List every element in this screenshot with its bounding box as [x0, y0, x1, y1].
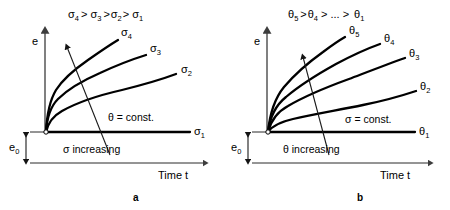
trend-arrow-a	[67, 47, 110, 155]
curve-label-sigma4: σ4	[121, 26, 132, 41]
panel-a: σ4>σ3>σ2>σ1 e Time t e0	[0, 0, 225, 210]
condition-label-a: θ = const.	[108, 111, 154, 123]
creep-curves-figure: σ4>σ3>σ2>σ1 e Time t e0	[0, 0, 450, 210]
header-b-rel-3: >	[343, 8, 349, 20]
curve-label-theta2: θ2	[420, 80, 430, 95]
header-rel-2: >	[103, 8, 109, 20]
header-b-rel-2: >	[321, 8, 327, 20]
header-sigma4-sub: 4	[75, 14, 79, 23]
curve-label-theta3: θ3	[409, 47, 419, 62]
curve-label-theta4: θ4	[384, 32, 394, 47]
curve-sigma2	[46, 74, 176, 132]
svg-text:θ5>θ4>...>θ1: θ5>θ4>...>θ1	[288, 8, 364, 23]
panel-b: θ5>θ4>...>θ1 e Time t e0	[225, 0, 450, 210]
header-theta4-sub: 4	[314, 14, 318, 23]
curve-label-sigma2: σ2	[181, 63, 192, 78]
header-sigma2-sub: 2	[118, 14, 122, 23]
panel-letter-a: a	[133, 192, 139, 203]
x-axis-label-a: Time t	[158, 169, 188, 181]
trend-arrow-b	[303, 57, 329, 155]
e0-bracket-a: e0	[9, 132, 45, 161]
header-sigma3-sub: 3	[97, 14, 101, 23]
e0-label-a: e0	[9, 141, 19, 156]
origin-point-b	[266, 130, 270, 134]
panel-b-plot: θ5>θ4>...>θ1 e Time t e0	[225, 0, 450, 210]
header-theta1-sub: 1	[360, 14, 364, 23]
curve-label-sigma1: σ1	[194, 125, 205, 140]
origin-point-a	[44, 130, 48, 134]
panel-a-plot: σ4>σ3>σ2>σ1 e Time t e0	[0, 0, 225, 210]
trend-label-a: σ increasing	[63, 143, 120, 155]
curve-label-theta5: θ5	[349, 24, 359, 39]
svg-text:σ4>σ3>σ2>σ1: σ4>σ3>σ2>σ1	[68, 8, 143, 23]
curve-theta2	[268, 91, 416, 132]
panel-a-header: σ4>σ3>σ2>σ1	[68, 8, 143, 23]
header-ellipsis: ...	[330, 8, 339, 20]
y-axis-label-a: e	[32, 35, 38, 47]
header-rel-1: >	[81, 8, 87, 20]
panel-b-header: θ5>θ4>...>θ1	[288, 8, 364, 23]
e0-bracket-b: e0	[231, 132, 267, 161]
header-rel-3: >	[123, 8, 129, 20]
curve-label-theta1: θ1	[419, 125, 429, 140]
trend-label-b: θ increasing	[283, 143, 340, 155]
header-sigma1-sub: 1	[139, 14, 143, 23]
header-theta5-sub: 5	[294, 14, 298, 23]
condition-label-b: σ = const.	[345, 113, 391, 125]
x-axis-label-b: Time t	[380, 169, 410, 181]
panel-letter-b: b	[357, 192, 363, 203]
e0-label-b: e0	[231, 141, 241, 156]
y-axis-label-b: e	[254, 35, 260, 47]
curve-label-sigma3: σ3	[150, 42, 161, 57]
header-b-rel-1: >	[300, 8, 306, 20]
